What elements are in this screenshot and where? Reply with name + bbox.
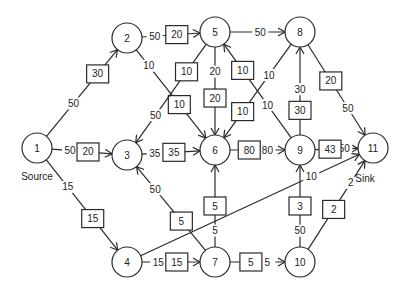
flow-box: 30 [87,65,109,83]
capacity-label: 50 [150,184,162,195]
flow-box: 5 [240,253,262,271]
edge-2-5: 5020 [142,26,200,44]
flow-value: 80 [244,145,256,156]
edge-4-7: 1515 [142,253,200,271]
node-9: 9 [285,135,315,165]
edge-7-6: 55 [204,165,226,247]
node-7: 7 [200,247,230,277]
flow-value: 20 [209,93,221,104]
flow-value: 20 [82,146,94,157]
edge-9-11: 5043 [315,140,358,158]
capacity-label: 50 [64,145,76,156]
flow-value: 5 [179,216,185,227]
capacity-label: 15 [153,257,165,268]
flow-box: 35 [163,143,185,161]
flow-box: 15 [82,210,104,228]
flow-box: 20 [204,89,226,107]
edge-line [46,50,117,137]
edge-3-6: 3535 [142,143,200,161]
edge-5-3: 5010 [136,44,207,143]
flow-box: 3 [289,197,311,215]
flow-value: 2 [331,204,337,215]
node-label: 10 [294,257,306,268]
capacity-label: 30 [294,84,306,95]
flow-box: 5 [170,212,192,230]
flow-value: 20 [171,29,183,40]
capacity-label: 80 [262,145,274,156]
node-label: 6 [212,145,218,156]
node-label: 2 [124,33,130,44]
node-1: 1Source [21,133,53,182]
node-caption-source: Source [21,171,53,182]
flow-box: 5 [204,197,226,215]
edge-line [46,160,117,250]
edge-5-8: 50 [230,26,285,38]
flow-box: 15 [166,253,188,271]
edge-7-3: 505 [137,167,206,251]
flow-value: 15 [171,257,183,268]
edge-line [137,167,206,251]
node-5: 5 [200,17,230,47]
edge-8-11: 5020 [308,45,365,136]
capacity-label: 10 [263,70,275,81]
node-10: 10 [285,247,315,277]
capacity-label: 50 [294,225,306,236]
flow-value: 10 [237,106,249,117]
flow-box: 10 [176,63,198,81]
node-6: 6 [200,135,230,165]
node-label: 7 [212,257,218,268]
flow-value: 5 [248,257,254,268]
node-4: 4 [112,247,142,277]
flow-value: 15 [87,213,99,224]
flow-value: 10 [237,65,249,76]
flow-box: 43 [319,140,341,158]
flow-box: 20 [77,143,99,161]
capacity-label: 2 [348,177,354,188]
capacity-label: 50 [150,110,162,121]
flow-box: 20 [320,72,342,90]
node-label: 9 [297,145,303,156]
node-label: 5 [212,27,218,38]
flow-value: 35 [168,147,180,158]
flow-box: 80 [238,141,260,159]
flow-value: 10 [181,66,193,77]
flow-value: 43 [324,144,336,155]
capacity-label: 10 [262,100,274,111]
capacity-label: 15 [62,181,74,192]
flow-box: 20 [166,26,188,44]
edge-1-4: 1515 [46,160,117,250]
capacity-label: 50 [255,27,267,38]
capacity-label: 35 [149,148,161,159]
capacity-label: 10 [306,171,318,182]
flow-value: 30 [294,105,306,116]
flow-box: 30 [289,101,311,119]
flow-box: 10 [232,61,254,79]
edge-9-8: 3030 [289,47,311,135]
capacity-label: 5 [212,225,218,236]
edge-5-6: 2020 [204,47,226,135]
edge-line [136,44,207,143]
capacity-label: 5 [265,257,271,268]
flow-value: 20 [325,75,337,86]
capacity-label: 50 [342,103,354,114]
node-caption-sink: Sink [355,173,375,184]
flow-box: 2 [323,200,345,218]
flow-value: 5 [212,201,218,212]
edge-7-10: 55 [230,253,285,271]
node-3: 3 [112,140,142,170]
node-label: 11 [368,143,379,154]
node-label: 1 [34,143,40,154]
flow-value: 10 [174,99,186,110]
node-label: 4 [124,257,130,268]
flow-box: 10 [168,96,190,114]
edge-1-3: 5020 [52,143,112,161]
edge-6-9: 8080 [230,141,285,159]
node-label: 3 [124,150,130,161]
flow-value: 30 [92,68,104,79]
flow-network-diagram: 5030502015155020101050102020501010101035… [0,0,413,292]
flow-box: 10 [232,103,254,121]
capacity-label: 50 [68,98,80,109]
node-2: 2 [112,23,142,53]
edge-1-2: 5030 [46,50,117,137]
arrowhead-icon [358,161,365,169]
